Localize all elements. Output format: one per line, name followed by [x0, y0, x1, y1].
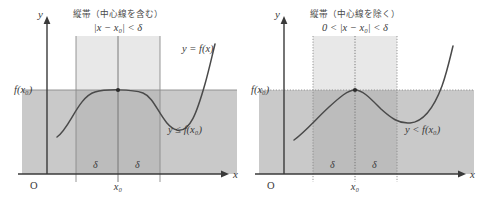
center-label-left: x₀ [113, 181, 123, 192]
panel-left: 縦帯（中心線を含む） |x − x₀| < δ y = f(x) y ≤ f(x… [0, 0, 245, 214]
y-axis-label-right: y [274, 8, 280, 20]
origin-label-left: O [30, 180, 38, 191]
region-label-right: y < f(x₀) [404, 124, 441, 136]
tangent-point-left [116, 88, 120, 92]
delta-right-label-right: δ [372, 159, 377, 170]
figure-container: 縦帯（中心線を含む） |x − x₀| < δ y = f(x) y ≤ f(x… [0, 0, 490, 214]
value-label-right: f(x₀) [251, 84, 270, 96]
y-axis-arrow-right [281, 16, 288, 24]
x-axis-label-left: x [232, 168, 238, 180]
y-axis-label-left: y [37, 8, 43, 20]
origin-label-right: O [267, 180, 275, 191]
value-label-left: f(x₀) [14, 84, 33, 96]
panel-right-canvas: 縦帯（中心線を除く） 0 < |x − x₀| < δ y < f(x₀) f(… [245, 0, 490, 214]
region-label-left: y ≤ f(x₀) [167, 124, 202, 136]
heading-jp-left: 縦帯（中心線を含む） [73, 8, 163, 19]
curve-label-left: y = f(x) [181, 43, 214, 55]
delta-right-label-left: δ [135, 159, 140, 170]
heading-math-left: |x − x₀| < δ [94, 22, 143, 33]
panel-right: 縦帯（中心線を除く） 0 < |x − x₀| < δ y < f(x₀) f(… [245, 0, 490, 214]
panel-left-canvas: 縦帯（中心線を含む） |x − x₀| < δ y = f(x) y ≤ f(x… [0, 0, 245, 214]
heading-math-right: 0 < |x − x₀| < δ [322, 22, 389, 33]
heading-jp-right: 縦帯（中心線を除く） [310, 8, 400, 19]
delta-left-label-right: δ [330, 159, 335, 170]
tangent-point-right [353, 88, 357, 92]
center-label-right: x₀ [350, 181, 360, 192]
x-axis-label-right: x [469, 168, 475, 180]
y-axis-arrow-left [44, 16, 51, 24]
delta-left-label-left: δ [93, 159, 98, 170]
